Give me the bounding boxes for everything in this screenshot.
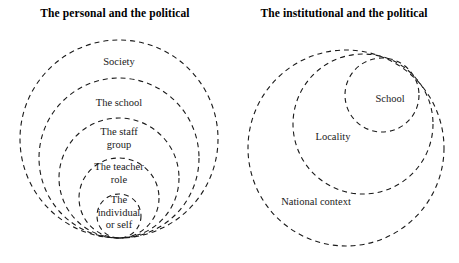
- ring-circle: [345, 58, 419, 132]
- figure-root: The personal and the political Society T…: [0, 0, 459, 263]
- ring-circle: [59, 118, 179, 238]
- ring-circle: [20, 40, 218, 238]
- panel-institutional-and-political: The institutional and the political Nati…: [229, 0, 459, 263]
- nested-circles-personal: [0, 0, 230, 263]
- nested-circles-institutional: [229, 0, 459, 263]
- ring-circle: [79, 158, 159, 238]
- panel-personal-and-political: The personal and the political Society T…: [0, 0, 230, 263]
- ring-circle: [248, 50, 444, 246]
- ring-circle: [97, 194, 141, 238]
